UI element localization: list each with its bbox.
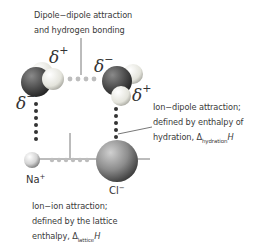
- sodium-ion: [24, 152, 40, 168]
- chloride-label: Cl−: [109, 184, 125, 196]
- delta-minus-left: δ−: [16, 92, 35, 113]
- sodium-label: Na+: [26, 173, 45, 185]
- ion-dipole-dots-right: [114, 107, 118, 139]
- chloride-ion: [96, 140, 138, 182]
- ion-ion-label: Ion−ion attraction; defined by the latti…: [32, 199, 117, 248]
- dipole-dipole-label: Dipole−dipole attraction and hydrogen bo…: [34, 8, 132, 38]
- dipole-dipole-dots: [68, 77, 97, 82]
- ion-dipole-leader-line-right: [118, 127, 152, 134]
- ion-ion-dots: [50, 158, 89, 162]
- delta-plus-left: δ+: [49, 46, 68, 67]
- delta-plus-right: δ+: [132, 84, 151, 105]
- ion-dipole-label: Ion−dipole attraction; defined by enthal…: [153, 100, 243, 149]
- delta-minus-right: δ−: [94, 55, 113, 76]
